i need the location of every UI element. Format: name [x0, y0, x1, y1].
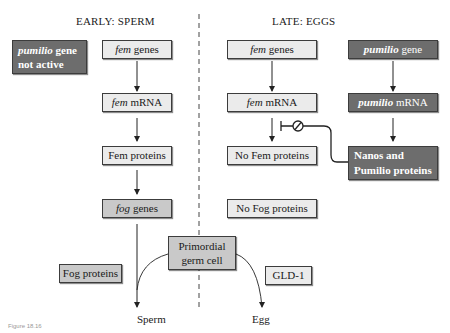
- label-text: gene: [399, 43, 423, 55]
- gene-name: fem: [250, 43, 266, 55]
- arrowhead: [390, 86, 396, 92]
- label-text: not active: [18, 58, 64, 70]
- gene-name: fem: [115, 43, 131, 55]
- fem-proteins-box: Fem proteins: [102, 146, 172, 165]
- sperm-label: Sperm: [137, 313, 166, 325]
- branch-to-egg: [236, 254, 262, 307]
- gene-name: pumilio: [364, 43, 399, 55]
- arrowhead: [259, 302, 265, 308]
- arrowhead: [134, 189, 140, 195]
- fem-genes-box-late: fem genes: [227, 40, 317, 59]
- gene-name: fog: [116, 202, 130, 214]
- egg-label: Egg: [252, 313, 270, 325]
- header-early-sperm: EARLY: SPERM: [76, 15, 155, 27]
- gene-name: pumilio: [358, 96, 393, 108]
- header-late-eggs: LATE: EGGS: [272, 15, 335, 27]
- label-text: genes: [131, 43, 159, 55]
- label-text: Primordial: [178, 240, 225, 252]
- fog-genes-box: fog genes: [102, 199, 172, 218]
- fog-proteins-box: Fog proteins: [59, 264, 122, 283]
- gene-name: fem: [247, 96, 263, 108]
- no-fog-proteins-box: No Fog proteins: [227, 199, 317, 218]
- label-text: genes: [130, 202, 158, 214]
- nanos-pumilio-proteins-box: Nanos andPumilio proteins: [348, 146, 438, 180]
- fem-mrna-box-late: fem mRNA: [227, 93, 317, 112]
- label-text: mRNA: [263, 96, 298, 108]
- figure-caption: Figure 18.16: [8, 323, 42, 329]
- arrowhead: [269, 136, 275, 142]
- branch-to-sperm: [137, 254, 168, 290]
- fem-genes-box-early: fem genes: [102, 40, 172, 59]
- label-text: Pumilio proteins: [354, 164, 432, 176]
- arrowhead: [390, 136, 396, 142]
- gene-name: fem: [112, 96, 128, 108]
- arrowhead: [134, 136, 140, 142]
- label-text: mRNA: [393, 96, 428, 108]
- label-text: germ cell: [181, 254, 222, 266]
- label-text: genes: [266, 43, 294, 55]
- fem-mrna-box-early: fem mRNA: [102, 93, 172, 112]
- arrowhead: [134, 86, 140, 92]
- pumilio-gene-not-active-box: pumilio genenot active: [12, 40, 87, 74]
- label-text: mRNA: [128, 96, 163, 108]
- pumilio-mrna-box: pumilio mRNA: [348, 93, 438, 112]
- arrowhead: [269, 86, 275, 92]
- label-text: Nanos and: [354, 149, 404, 161]
- primordial-germ-cell-box: Primordialgerm cell: [168, 236, 236, 270]
- label-text: gene: [53, 44, 77, 56]
- no-fem-proteins-box: No Fem proteins: [227, 146, 317, 165]
- blocked-icon: [293, 121, 303, 131]
- pumilio-gene-box: pumilio gene: [348, 40, 438, 59]
- gene-name: pumilio: [18, 44, 53, 56]
- gld1-box: GLD-1: [265, 266, 312, 285]
- arrowhead: [134, 302, 140, 308]
